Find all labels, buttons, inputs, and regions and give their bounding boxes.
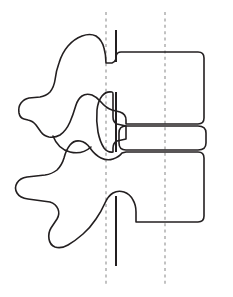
- spine-figure: [0, 0, 233, 297]
- spine-diagram-canvas: [0, 0, 233, 297]
